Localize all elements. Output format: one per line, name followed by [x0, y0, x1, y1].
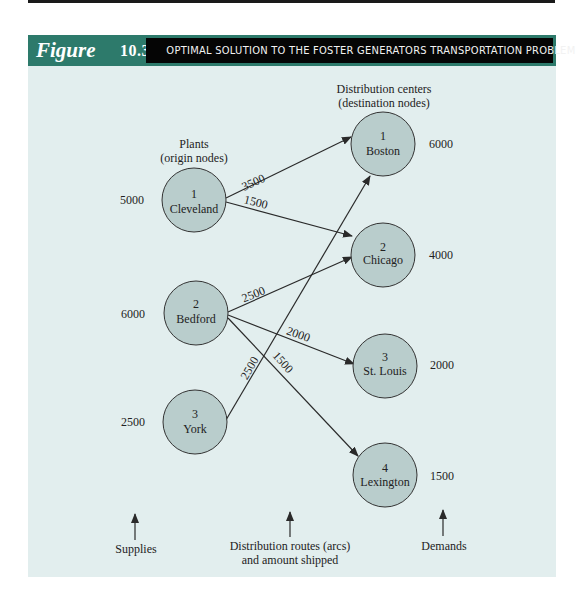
origins-heading-line1: Plants: [179, 137, 209, 151]
routes-caption-line1: Distribution routes (arcs): [230, 539, 351, 553]
node-name: Bedford: [176, 312, 215, 326]
node-id: 1: [380, 129, 386, 143]
supply-york: 2500: [121, 415, 145, 429]
destinations-heading-line1: Distribution centers: [337, 82, 432, 96]
destination-node-stlouis: 3 St. Louis: [353, 334, 417, 398]
origins-heading-line2: (origin nodes): [160, 151, 228, 165]
node-name: Lexington: [360, 475, 409, 489]
node-name: Chicago: [363, 253, 403, 267]
node-name: Cleveland: [170, 202, 219, 216]
destinations-heading-line2: (destination nodes): [338, 96, 430, 110]
node-id: 3: [382, 350, 388, 364]
origin-node-york: 3 York: [163, 390, 227, 454]
arc-cleveland-chicago: [226, 202, 352, 236]
node-name: York: [183, 422, 206, 436]
supply-cleveland: 5000: [120, 193, 144, 207]
arc-label-bedford-chicago: 2500: [240, 283, 267, 305]
node-name: Boston: [366, 144, 400, 158]
node-id: 2: [380, 240, 386, 254]
arc-label-cleveland-chicago: 1500: [243, 192, 270, 211]
node-name: St. Louis: [363, 364, 407, 378]
origin-node-bedford: 2 Bedford: [164, 281, 228, 345]
destination-node-lexington: 4 Lexington: [353, 443, 417, 507]
node-id: 1: [191, 187, 197, 201]
destination-node-chicago: 2 Chicago: [351, 223, 415, 287]
arc-label-bedford-lexington: 1500: [270, 349, 296, 376]
supply-bedford: 6000: [121, 307, 145, 321]
arc-label-cleveland-boston: 3500: [240, 171, 268, 194]
demand-stlouis: 2000: [430, 358, 454, 372]
origin-node-cleveland: 1 Cleveland: [162, 168, 226, 232]
arc-label-bedford-stlouis: 2000: [285, 324, 312, 345]
demand-boston: 6000: [429, 137, 453, 151]
node-id: 3: [192, 407, 198, 421]
supplies-caption: Supplies: [115, 542, 157, 556]
demand-chicago: 4000: [429, 248, 453, 262]
arc-label-york-boston: 2500: [237, 354, 261, 382]
demands-caption: Demands: [421, 539, 467, 553]
destination-node-boston: 1 Boston: [351, 112, 415, 176]
network-diagram: Plants (origin nodes) Distribution cente…: [0, 0, 581, 607]
node-id: 4: [382, 461, 388, 475]
node-id: 2: [193, 297, 199, 311]
routes-caption-line2: and amount shipped: [242, 553, 339, 567]
demand-lexington: 1500: [430, 469, 454, 483]
